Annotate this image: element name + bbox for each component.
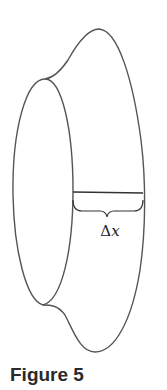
outer-surface-outline — [43, 29, 145, 352]
delta-x-brace — [73, 200, 143, 217]
delta-x-label: Δx — [90, 222, 130, 240]
figure-caption: Figure 5 — [10, 364, 84, 386]
solid-of-revolution-diagram — [0, 0, 167, 390]
thickness-segment — [73, 192, 143, 193]
x-variable: x — [111, 222, 119, 240]
delta-symbol: Δ — [100, 222, 111, 240]
cross-section-ellipse — [13, 79, 73, 305]
